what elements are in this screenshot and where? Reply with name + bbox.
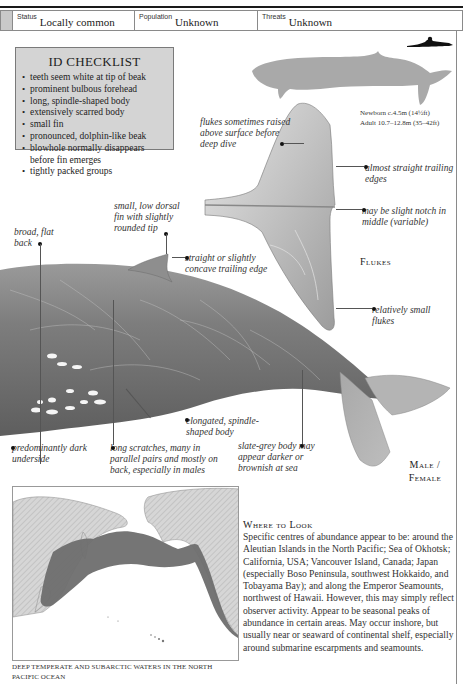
checklist-item: prominent bulbous forehead <box>22 84 167 96</box>
annotation-trailing-edge: straight or slightly concave trailing ed… <box>185 253 281 275</box>
annotation-long-scratches: long scratches, many in parallel pairs a… <box>110 443 220 476</box>
checklist-item: small fin <box>22 119 167 131</box>
whale-silhouette-icon <box>250 43 455 113</box>
leader-dot <box>364 165 368 169</box>
checklist-item: teeth seem white at tip of beak <box>22 72 167 84</box>
adult-size: Adult 10.7–12.8m (35–42ft) <box>360 118 439 128</box>
leader-dot <box>300 444 304 448</box>
leader-dot <box>362 208 366 212</box>
flukes-caption: Flukes <box>360 256 391 267</box>
annotation-elongated-body: elongated, spindle-shaped body <box>186 416 276 438</box>
annotation-dorsal-fin: small, low dorsal fin with slightly roun… <box>114 201 192 234</box>
where-to-look-title: Where to Look <box>243 519 455 530</box>
annotation-straight-trailing-edges: almost straight trailing edges <box>365 163 455 185</box>
leader-line <box>336 166 364 167</box>
checklist-item: blowhole normally disappears before fin … <box>22 143 167 167</box>
newborn-size: Newborn c.4.5m (14½ft) <box>360 108 439 118</box>
annotation-flukes-raised: flukes sometimes raised above surface be… <box>200 117 292 150</box>
id-checklist-box: ID CHECKLIST teeth seem white at tip of … <box>15 47 174 150</box>
leader-line <box>172 257 185 258</box>
map-caption: DEEP TEMPERATE AND SUBARCTIC WATERS IN T… <box>12 662 240 682</box>
where-to-look-section: Where to Look Specific centres of abunda… <box>243 519 455 654</box>
checklist-item: tightly packed groups <box>22 166 167 178</box>
leader-line <box>336 308 372 309</box>
north-pacific-map <box>13 487 239 661</box>
annotation-dark-underside: predominantly dark underside <box>12 443 92 465</box>
checklist-item: long, spindle-shaped body <box>22 96 167 108</box>
leader-line <box>113 300 114 445</box>
leader-dot <box>185 418 189 422</box>
leader-line <box>40 244 41 464</box>
leader-line <box>302 370 303 444</box>
checklist-item: pronounced, dolphin-like beak <box>22 131 167 143</box>
leader-dot <box>111 446 115 450</box>
leader-line <box>336 209 362 210</box>
leader-dot <box>185 256 189 260</box>
sex-caption: Male / Female <box>400 458 450 484</box>
annotation-small-flukes: relatively small flukes <box>372 305 452 327</box>
checklist-list: teeth seem white at tip of beak prominen… <box>22 72 167 178</box>
annotation-broad-flat-back: broad, flat back <box>14 227 74 249</box>
size-info: Newborn c.4.5m (14½ft) Adult 10.7–12.8m … <box>360 108 439 128</box>
leader-dot <box>11 446 15 450</box>
human-swimmer-scale-icon <box>405 36 455 50</box>
leader-dot <box>372 307 376 311</box>
checklist-item: extensively scarred body <box>22 107 167 119</box>
leader-line <box>284 143 304 144</box>
range-map <box>12 486 239 661</box>
leader-line <box>166 234 167 254</box>
checklist-title: ID CHECKLIST <box>22 54 167 70</box>
where-to-look-body: Specific centres of abundance appear to … <box>243 531 455 654</box>
annotation-slate-grey-body: slate-grey body may appear darker or bro… <box>238 441 324 474</box>
annotation-slight-notch: may be slight notch in middle (variable) <box>362 206 456 228</box>
